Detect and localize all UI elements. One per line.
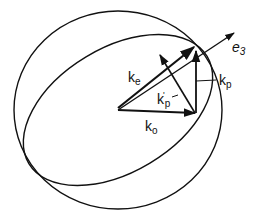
label-k-e: ke <box>128 70 141 87</box>
label-k-o: ko <box>145 119 158 136</box>
kp-prime-leader-line <box>172 95 178 97</box>
label-e-3: e3 <box>232 40 245 57</box>
vector-diagram <box>0 0 255 214</box>
diagram-canvas: ke k'p ko kp e3 <box>0 0 255 214</box>
ko-vector-arrow <box>118 110 195 113</box>
label-k-p: kp <box>219 73 232 90</box>
label-k-p-prime: k'p <box>157 91 170 109</box>
